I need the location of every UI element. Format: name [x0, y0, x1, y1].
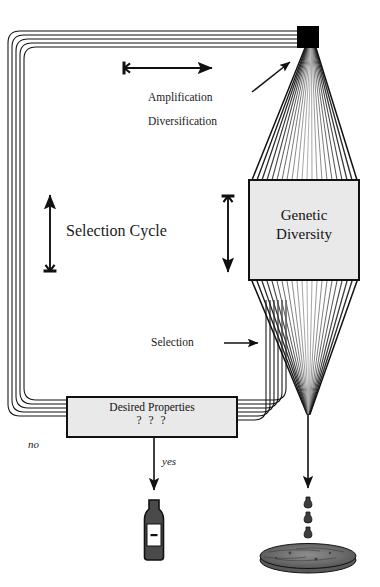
genetic-diversity-line1: Genetic — [281, 207, 328, 223]
desired-properties-line1: Desired Properties — [66, 401, 238, 413]
amplification-label: Amplification — [148, 91, 213, 104]
black-square-node — [297, 26, 319, 48]
selection-cycle-label: Selection Cycle — [66, 222, 167, 240]
lower-selection-fan — [252, 281, 357, 414]
no-label: no — [28, 438, 39, 450]
droplet-icon — [304, 497, 312, 538]
desired-properties-label: Desired Properties ? ? ? — [66, 401, 238, 426]
petri-dish-icon — [260, 544, 356, 574]
diagram-canvas: Genetic Diversity Desired Properties ? ?… — [0, 0, 380, 587]
diversification-label: Diversification — [148, 115, 217, 128]
upper-diversity-fan — [252, 48, 357, 180]
diagram-vector-layer — [0, 0, 380, 587]
selection-label: Selection — [151, 336, 194, 349]
genetic-diversity-label: Genetic Diversity — [248, 206, 360, 244]
genetic-diversity-line2: Diversity — [276, 226, 332, 242]
bottle-icon — [145, 500, 164, 560]
desired-properties-line2: ? ? ? — [66, 414, 238, 426]
yes-label: yes — [162, 455, 176, 467]
arrow-diagonal-up-right — [252, 62, 290, 92]
